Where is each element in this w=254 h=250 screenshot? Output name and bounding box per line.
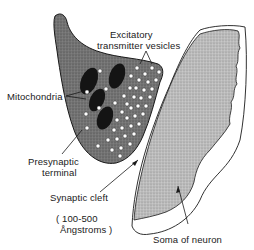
label-mitochondria: Mitochondria: [7, 92, 63, 102]
soma-of-neuron: [134, 30, 240, 220]
label-cleft-size-2: Ångstroms ): [60, 225, 112, 235]
label-synaptic-cleft: Synaptic cleft: [50, 193, 108, 203]
label-terminal: terminal: [42, 168, 77, 178]
label-cleft-size-1: ( 100-500: [56, 214, 98, 224]
label-presynaptic: Presynaptic: [28, 157, 79, 167]
arrowhead-icon: [132, 160, 138, 166]
label-excitatory: Excitatory: [110, 30, 153, 40]
label-soma-of-neuron: Soma of neuron: [153, 235, 222, 245]
label-transmitter-vesicles: transmitter vesicles: [97, 41, 180, 51]
